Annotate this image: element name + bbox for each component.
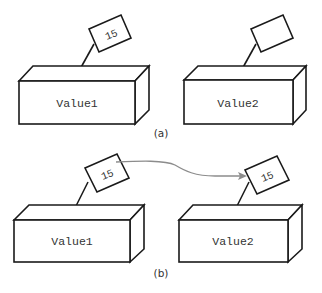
box-label: Value1 (51, 235, 93, 248)
box-label: Value1 (56, 97, 98, 110)
box-label: Value2 (217, 97, 259, 110)
box-top-face (184, 66, 306, 80)
box-top-face (14, 205, 144, 220)
box-value1-a: 15 Value1 (19, 15, 149, 124)
panel-a: 15 Value1 Value2 (a) (19, 15, 306, 139)
empty-tag-card (251, 15, 293, 52)
diagram-canvas: 15 Value1 Value2 (a) (0, 0, 322, 293)
box-top-face (179, 205, 302, 220)
box-value2-a: Value2 (184, 15, 306, 124)
box-top-face (19, 66, 149, 81)
panel-caption: (b) (154, 267, 169, 279)
copy-arrow (116, 161, 247, 180)
panel-b: 15 Value1 15 Value2 (b) (14, 154, 302, 279)
box-value1-b: 15 Value1 (14, 154, 144, 262)
panel-caption: (a) (154, 127, 169, 139)
box-label: Value2 (212, 235, 254, 248)
box-value2-b: 15 Value2 (179, 156, 302, 262)
copy-arrow-path (116, 161, 240, 176)
